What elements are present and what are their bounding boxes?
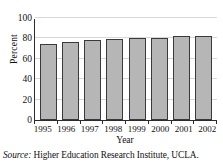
y-axis-tick-labels: 020406080100 [12,0,32,164]
y-tick-label: 80 [12,34,32,44]
bar [151,38,168,120]
bar [129,38,146,120]
bar-item [126,19,148,120]
bar [195,36,212,120]
source-text: Higher Education Research Institute, UCL… [34,150,199,160]
bar [173,36,190,120]
bar-item [148,19,170,120]
x-axis-title: Year [34,135,216,145]
plot-area [34,19,217,121]
bar-series [35,19,217,120]
x-tick-label: 1999 [125,124,149,134]
bar-chart-figure: Percent 020406080100 1995199619971998199… [0,0,223,164]
y-tick-label: 20 [12,96,32,106]
bar [106,39,123,120]
bar [84,40,101,120]
bar [40,44,57,121]
x-axis-tick-labels: 19951996199719981999200020012002 [31,124,219,134]
y-tick-label: 60 [12,55,32,65]
bar-item [82,19,104,120]
y-tick-label: 0 [12,116,32,126]
x-tick-label: 2002 [196,124,220,134]
source-label: Source: [3,150,31,160]
bar-item [193,19,215,120]
bar-item [59,19,81,120]
gridline [35,17,217,18]
x-tick-label: 1996 [55,124,79,134]
y-tick-label: 100 [12,14,32,24]
x-tick-label: 2001 [172,124,196,134]
bar [62,42,79,120]
x-tick-label: 1995 [31,124,55,134]
bar-item [104,19,126,120]
y-tick-label: 40 [12,75,32,85]
x-tick-label: 1998 [102,124,126,134]
source-note: Source: Higher Education Research Instit… [3,150,223,160]
bar-item [171,19,193,120]
bar-item [37,19,59,120]
x-tick-label: 1997 [78,124,102,134]
x-tick-label: 2000 [149,124,173,134]
